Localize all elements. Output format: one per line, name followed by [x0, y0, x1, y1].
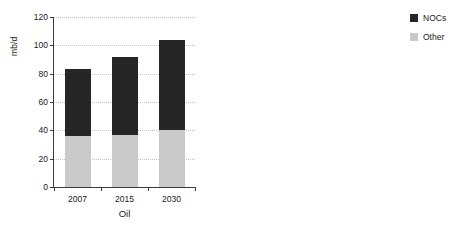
bar-segment-other[interactable] [65, 136, 91, 187]
legend-swatch-icon [410, 33, 418, 41]
bar-segment-nocs[interactable] [112, 57, 138, 135]
x-axis-tick [54, 187, 55, 191]
y-axis-tick-label: 60 [39, 97, 48, 107]
chart-panel-gas: Bcm 07501 5002 2503 0003 7504 500 200620… [228, 0, 390, 225]
y-axis-tick [50, 159, 54, 160]
y-axis-tick-label: 20 [39, 154, 48, 164]
x-axis-tick [101, 187, 102, 191]
legend-item[interactable]: NOCs [410, 13, 458, 23]
x-axis-tick-label: 2007 [68, 194, 87, 204]
bar-segment-nocs[interactable] [159, 40, 185, 131]
y-axis-tick [50, 45, 54, 46]
legend-item[interactable]: Other [410, 32, 458, 42]
figure: mb/d 020406080100120 200720152030 Oil Bc… [0, 0, 458, 225]
y-axis-tick-label: 120 [34, 12, 48, 22]
y-axis-tick [50, 17, 54, 18]
legend-swatch-icon [410, 14, 418, 22]
y-axis-tick [50, 74, 54, 75]
bar-segment-other[interactable] [112, 135, 138, 187]
bar-segment-nocs[interactable] [65, 69, 91, 136]
y-axis-tick [50, 130, 54, 131]
y-axis-unit-label-oil: mb/d [9, 37, 19, 56]
legend-label: Other [423, 32, 444, 42]
legend: NOCsOther [410, 13, 458, 51]
bar-segment-other[interactable] [159, 130, 185, 187]
stacked-bar[interactable] [159, 40, 185, 187]
y-axis-tick-label: 40 [39, 125, 48, 135]
plot-area-oil: 020406080100120 200720152030 Oil [53, 17, 195, 188]
y-axis-tick-label: 80 [39, 69, 48, 79]
chart-panel-oil: mb/d 020406080100120 200720152030 Oil [0, 0, 230, 225]
stacked-bar[interactable] [112, 57, 138, 187]
stacked-bar[interactable] [65, 69, 91, 187]
x-axis-title-oil: Oil [54, 208, 195, 219]
y-axis-tick-label: 100 [34, 40, 48, 50]
x-axis-tick-label: 2030 [162, 194, 181, 204]
gridline [54, 17, 195, 18]
x-axis-tick [148, 187, 149, 191]
y-axis-tick [50, 102, 54, 103]
x-axis-tick [195, 187, 196, 191]
y-axis-tick-label: 0 [43, 182, 48, 192]
legend-label: NOCs [423, 13, 446, 23]
x-axis-tick-label: 2015 [115, 194, 134, 204]
